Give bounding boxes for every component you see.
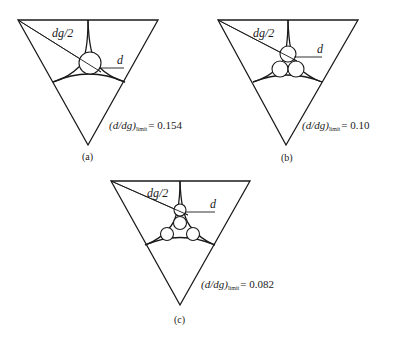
radius-label: dg/2 xyxy=(52,26,73,40)
ratio-subscript: limit xyxy=(136,126,148,132)
panel-a: dg/2 d (d/dg)limit= 0.154 (a) xyxy=(18,20,182,163)
particle-label: d xyxy=(317,42,324,56)
particle-circle-right xyxy=(288,61,304,77)
ratio-value: = 0.10 xyxy=(341,119,370,131)
grain-boundary-bottom xyxy=(145,238,215,246)
particle-circle-right xyxy=(187,228,200,241)
particle-circle-middle xyxy=(174,217,187,230)
ratio-prefix: (d/dg) xyxy=(201,278,228,291)
ratio-value: = 0.082 xyxy=(240,278,274,290)
radius-label: dg/2 xyxy=(253,26,274,40)
void-filling-diagram: dg/2 d (d/dg)limit= 0.154 (a) dg/2 d (d/… xyxy=(0,0,399,340)
ratio-label: (d/dg)limit= 0.10 xyxy=(302,119,370,132)
particle-circle-left xyxy=(272,61,288,77)
ratio-value: = 0.154 xyxy=(148,119,182,131)
ratio-label: (d/dg)limit= 0.154 xyxy=(109,119,182,132)
panel-caption: (b) xyxy=(281,152,293,164)
ratio-subscript: limit xyxy=(329,126,341,132)
panel-c: dg/2 d (d/dg)limit= 0.082 (c) xyxy=(111,181,274,326)
panel-caption: (c) xyxy=(174,314,185,326)
radius-label: dg/2 xyxy=(147,186,168,200)
grain-boundary-bottom xyxy=(53,74,125,82)
grain-boundary-bottom xyxy=(253,75,322,82)
particle-label: d xyxy=(117,53,124,67)
particle-label: d xyxy=(210,197,217,211)
ratio-prefix: (d/dg) xyxy=(302,119,329,132)
particle-circle-left xyxy=(161,228,174,241)
ratio-subscript: limit xyxy=(228,285,240,291)
panel-caption: (a) xyxy=(82,151,93,163)
particle-circle xyxy=(79,52,101,74)
ratio-prefix: (d/dg) xyxy=(109,119,136,132)
panel-b: dg/2 d (d/dg)limit= 0.10 (b) xyxy=(218,20,370,164)
ratio-label: (d/dg)limit= 0.082 xyxy=(201,278,274,291)
